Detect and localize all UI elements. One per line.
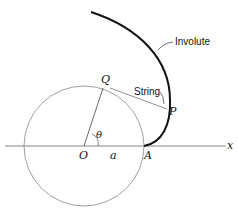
x-axis-label: x bbox=[227, 140, 233, 151]
radius-a-label: a bbox=[110, 150, 117, 161]
string-leader bbox=[160, 92, 164, 104]
theta-label: θ bbox=[96, 130, 102, 140]
involute-diagram: Involute String P Q O A a θ x bbox=[0, 0, 238, 224]
involute-label: Involute bbox=[175, 37, 210, 47]
involute-leader bbox=[158, 42, 173, 50]
point-O-label: O bbox=[79, 150, 88, 161]
point-A-label: A bbox=[144, 150, 152, 161]
string-label: String bbox=[134, 87, 160, 97]
point-Q-label: Q bbox=[101, 74, 110, 85]
point-P-label: P bbox=[169, 106, 176, 117]
diagram-graphics bbox=[0, 0, 238, 224]
